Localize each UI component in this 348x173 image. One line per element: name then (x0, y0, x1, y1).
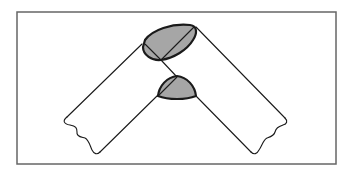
diagram-figure: Line drawing of two bent tube/band segme… (0, 0, 348, 173)
diagram-canvas (0, 0, 348, 173)
